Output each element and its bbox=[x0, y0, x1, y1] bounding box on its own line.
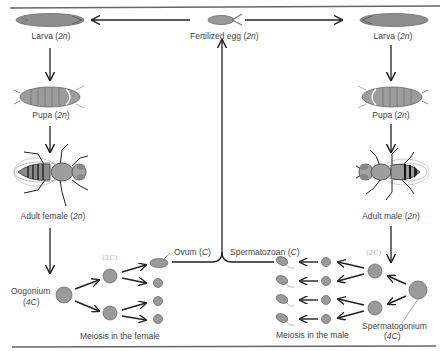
annotation-female-2c: (2C) bbox=[102, 254, 117, 262]
adult-female-fly-icon bbox=[14, 144, 88, 206]
secondary-oocyte-top bbox=[103, 269, 117, 283]
pupa-right-icon bbox=[358, 86, 428, 108]
drosophila-life-cycle-diagram: Larva (2n) Fertilized egg (2n) Larva (2n… bbox=[0, 0, 446, 351]
secondary-spermatocyte-top bbox=[368, 264, 382, 278]
label-larva-left: Larva (2n) bbox=[16, 31, 86, 41]
adult-male-fly-icon bbox=[356, 148, 429, 200]
label-oogonium: Oogonium bbox=[11, 286, 50, 296]
arrow-ovum-to-egg bbox=[172, 40, 222, 262]
label-pupa-right: Pupa (2n) bbox=[356, 110, 426, 120]
label-ovum: Ovum (C) bbox=[174, 247, 211, 257]
diagram-graphics bbox=[0, 0, 446, 351]
label-spermatogonium-dna: (4C) bbox=[384, 331, 401, 341]
secondary-oocyte-bottom bbox=[103, 306, 117, 320]
label-spermatogonium: Spermatogonium bbox=[362, 321, 427, 331]
caption-female-meiosis: Meiosis in the female bbox=[80, 331, 160, 341]
larva-left-icon bbox=[16, 14, 84, 27]
caption-male-meiosis: Meiosis in the male bbox=[276, 330, 349, 340]
ovum-cell bbox=[150, 259, 168, 268]
pupa-left-icon bbox=[14, 86, 84, 108]
spermatogonium-cell bbox=[409, 281, 427, 299]
fertilized-egg-icon bbox=[208, 14, 242, 25]
label-pupa-left: Pupa (2n) bbox=[16, 110, 86, 120]
spermatids bbox=[322, 258, 331, 324]
larva-right-icon bbox=[360, 14, 428, 27]
label-oogonium-dna: (4C) bbox=[23, 297, 40, 307]
top-rule bbox=[10, 6, 440, 8]
label-adult-female: Adult female (2n) bbox=[8, 211, 98, 221]
label-fertilized-egg: Fertilized egg (2n) bbox=[190, 31, 254, 41]
polar-body-1 bbox=[154, 279, 163, 288]
polar-body-2 bbox=[154, 297, 163, 306]
oogonium-cell bbox=[56, 287, 72, 303]
label-adult-male: Adult male (2n) bbox=[352, 211, 430, 221]
label-spermatozoan: Spermatozoan (C) bbox=[230, 247, 299, 257]
bottom-rule bbox=[12, 346, 436, 347]
polar-body-3 bbox=[154, 315, 163, 324]
label-larva-right: Larva (2n) bbox=[358, 31, 428, 41]
secondary-spermatocyte-bottom bbox=[368, 301, 382, 315]
annotation-male-2c: (2C) bbox=[366, 249, 381, 257]
